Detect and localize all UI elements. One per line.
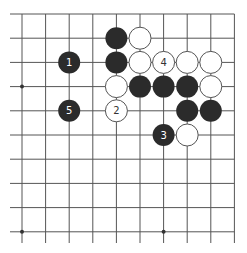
- move-number-label: 2: [113, 105, 119, 116]
- white-stone-4: 4: [153, 51, 175, 73]
- black-stone-circle: [129, 76, 151, 98]
- white-stone: [200, 51, 222, 73]
- move-number-label: 3: [160, 130, 166, 141]
- black-stone: [153, 76, 175, 98]
- white-stone: [129, 51, 151, 73]
- move-number-label: 1: [66, 57, 72, 68]
- white-stone-circle: [200, 51, 222, 73]
- black-stone: [105, 51, 127, 73]
- white-stone-circle: [200, 76, 222, 98]
- star-point: [162, 230, 166, 234]
- white-stone-circle: [176, 51, 198, 73]
- black-stone-circle: [105, 51, 127, 73]
- star-point: [20, 85, 24, 89]
- black-stone: [200, 100, 222, 122]
- black-stone: [129, 76, 151, 98]
- white-stone: [200, 76, 222, 98]
- white-stone: [176, 51, 198, 73]
- black-stone: [176, 100, 198, 122]
- white-stone: [105, 76, 127, 98]
- white-stone-circle: [129, 51, 151, 73]
- star-point: [20, 230, 24, 234]
- move-number-label: 4: [160, 57, 166, 68]
- move-number-label: 5: [66, 105, 72, 116]
- white-stone-2: 2: [105, 100, 127, 122]
- black-stone-circle: [153, 76, 175, 98]
- black-stone-circle: [105, 27, 127, 49]
- white-stone: [176, 124, 198, 146]
- black-stone-3: 3: [153, 124, 175, 146]
- white-stone: [129, 27, 151, 49]
- black-stone-5: 5: [58, 100, 80, 122]
- white-stone-circle: [129, 27, 151, 49]
- black-stone-circle: [176, 100, 198, 122]
- go-board: 14523: [0, 0, 247, 253]
- black-stone: [176, 76, 198, 98]
- white-stone-circle: [105, 76, 127, 98]
- white-stone-circle: [176, 124, 198, 146]
- black-stone-circle: [176, 76, 198, 98]
- black-stone: [105, 27, 127, 49]
- grid-lines: [10, 14, 234, 243]
- black-stone-circle: [200, 100, 222, 122]
- black-stone-1: 1: [58, 51, 80, 73]
